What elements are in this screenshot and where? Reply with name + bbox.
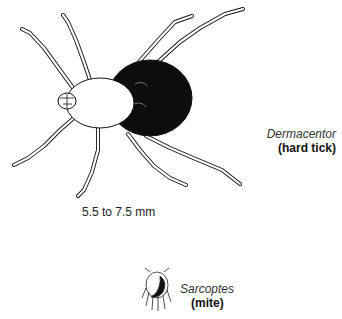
- sarcoptes-genus-name: Sarcoptes: [180, 282, 240, 296]
- sarcoptes-type: (mite): [180, 296, 240, 310]
- dermacentor-genus-name: Dermacentor: [252, 127, 336, 141]
- dermacentor-label: Dermacentor (hard tick): [252, 127, 336, 155]
- sarcoptes-label: Sarcoptes (mite): [180, 282, 240, 310]
- dermacentor-type: (hard tick): [252, 141, 336, 155]
- sarcoptes-mite-illustration: [0, 0, 342, 319]
- tick-size-label: 5.5 to 7.5 mm: [82, 205, 155, 219]
